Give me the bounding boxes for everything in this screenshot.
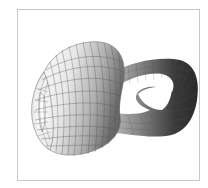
- bulb-body: [32, 42, 125, 156]
- klein-bottle-illustration: [0, 0, 208, 188]
